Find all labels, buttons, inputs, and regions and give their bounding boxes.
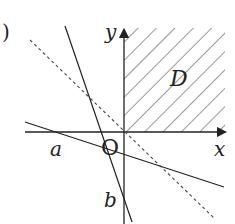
paren-label: ) [2, 22, 10, 42]
region-label-d: D [170, 68, 188, 90]
y-axis-label: y [105, 22, 116, 42]
line-b [65, 26, 132, 222]
x-axis-label: x [214, 139, 225, 159]
point-a-label: a [50, 139, 62, 159]
coordinate-diagram [0, 0, 235, 224]
origin-label: O [101, 137, 119, 159]
point-b-label: b [104, 190, 117, 210]
